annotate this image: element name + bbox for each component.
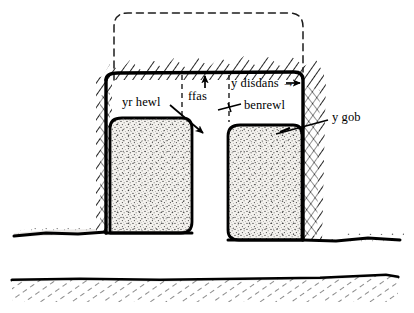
cross-section-drawing xyxy=(0,0,414,313)
label-y-disdans: y disdans → xyxy=(231,77,295,90)
right-wall-hatching xyxy=(302,72,326,242)
diagram-canvas: yr hewl ffas y disdans → benrewl y gob xyxy=(0,0,414,313)
label-y-gob: y gob xyxy=(332,111,361,124)
lower-ground-surface xyxy=(12,275,398,302)
label-yr-hewl: yr hewl xyxy=(122,96,161,109)
label-benrewl: benrewl xyxy=(244,99,285,112)
left-soil-block xyxy=(110,118,192,233)
right-soil-block xyxy=(228,125,302,240)
label-ffas: ffas xyxy=(188,90,207,103)
